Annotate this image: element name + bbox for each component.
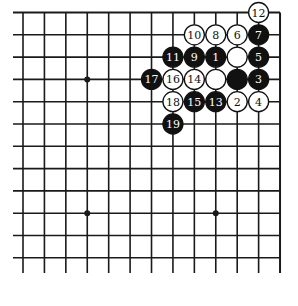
- move-number: 18: [166, 96, 180, 109]
- move-number: 13: [209, 96, 223, 109]
- move-number: 12: [252, 7, 266, 20]
- move-number: 9: [191, 51, 198, 64]
- star-point: [84, 210, 90, 216]
- white-stone: [206, 69, 226, 89]
- move-number: 10: [187, 29, 201, 42]
- move-number: 2: [234, 96, 241, 109]
- stones-layer: 12345678910111213141516171819: [142, 3, 269, 135]
- white-stone-6: 6: [227, 25, 247, 45]
- move-number: 6: [234, 29, 241, 42]
- black-stone-13: 13: [206, 92, 226, 112]
- black-stone: [227, 69, 247, 89]
- black-stone-5: 5: [249, 47, 269, 67]
- black-stone-1: 1: [206, 47, 226, 67]
- white-stone: [227, 47, 247, 67]
- black-stone-7: 7: [249, 25, 269, 45]
- white-stone-8: 8: [206, 25, 226, 45]
- black-stone-17: 17: [142, 69, 162, 89]
- move-number: 16: [166, 73, 180, 86]
- stone-circle: [227, 69, 247, 89]
- move-number: 14: [187, 73, 201, 86]
- white-stone-10: 10: [184, 25, 204, 45]
- move-number: 1: [212, 51, 219, 64]
- white-stone-14: 14: [184, 69, 204, 89]
- stone-circle: [206, 69, 226, 89]
- black-stone-9: 9: [184, 47, 204, 67]
- stone-circle: [227, 47, 247, 67]
- move-number: 17: [145, 73, 159, 86]
- star-point: [213, 210, 219, 216]
- move-number: 4: [255, 96, 262, 109]
- black-stone-3: 3: [249, 69, 269, 89]
- move-number: 8: [212, 29, 219, 42]
- white-stone-18: 18: [163, 92, 183, 112]
- white-stone-16: 16: [163, 69, 183, 89]
- move-number: 3: [255, 73, 262, 86]
- black-stone-11: 11: [163, 47, 183, 67]
- white-stone-2: 2: [227, 92, 247, 112]
- move-number: 15: [187, 96, 201, 109]
- black-stone-19: 19: [163, 114, 183, 134]
- move-number: 19: [166, 118, 180, 131]
- move-number: 7: [255, 29, 262, 42]
- white-stone-4: 4: [249, 92, 269, 112]
- move-number: 5: [255, 51, 262, 64]
- black-stone-15: 15: [184, 92, 204, 112]
- go-board-diagram: 12345678910111213141516171819: [0, 0, 298, 306]
- white-stone-12: 12: [249, 3, 269, 23]
- move-number: 11: [166, 51, 180, 64]
- star-point: [84, 76, 90, 82]
